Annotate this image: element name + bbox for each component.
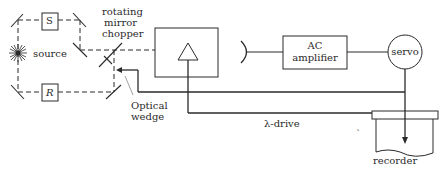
monochromator-box: [155, 28, 218, 77]
sample-label: S: [46, 15, 53, 26]
reference-label: R: [46, 87, 54, 98]
wedge-label-1: Optical: [131, 100, 168, 111]
detector-icon: [241, 41, 247, 63]
wedge-arrow: [116, 67, 122, 73]
source-label: source: [33, 48, 67, 59]
stray-mark: ˋ: [356, 128, 361, 139]
chopper-label-2: mirror: [104, 17, 137, 28]
wedge-label-2: wedge: [131, 111, 164, 122]
prism-icon: [178, 43, 198, 60]
amp-label-2: amplifier: [283, 52, 347, 63]
servo-label: servo: [388, 46, 422, 57]
diagram-lines: [0, 0, 446, 170]
chopper-label-3: chopper: [102, 28, 144, 39]
amp-label-1: AC: [283, 40, 347, 51]
lambda-drive-label: λ-drive: [264, 118, 300, 129]
recorder-label: recorder: [373, 155, 417, 166]
spectrophotometer-diagram: S R source rotating mirror chopper Optic…: [0, 0, 446, 170]
chopper-label-1: rotating: [102, 6, 143, 17]
